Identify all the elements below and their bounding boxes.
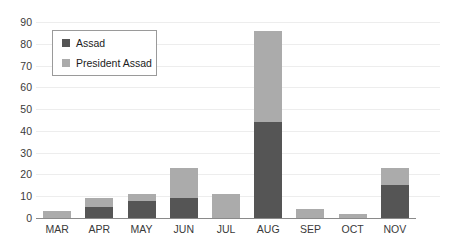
x-axis-tick-label: NOV [367,224,423,235]
gridline [36,87,440,88]
gridline [36,131,440,132]
bar-segment-president-assad [212,194,240,218]
bar-segment-president-assad [85,198,113,207]
bar-segment-president-assad [381,168,409,185]
gridline [36,174,440,175]
bar-group [170,168,198,218]
y-axis-tick-label: 90 [8,17,32,28]
bar-segment-assad [254,122,282,218]
y-axis-tick-label: 10 [8,191,32,202]
legend-swatch-president-assad [62,59,70,67]
bar-segment-president-assad [296,209,324,218]
y-axis-tick-label: 70 [8,61,32,72]
bar-segment-assad [381,185,409,218]
bar-group [254,31,282,218]
legend-swatch-assad [62,39,70,47]
bar-segment-assad [85,207,113,218]
legend-entry-president-assad: President Assad [62,58,152,69]
y-axis-tick-label: 30 [8,148,32,159]
bar-segment-president-assad [170,168,198,198]
legend-label-president-assad: President Assad [76,58,152,69]
bar-group [85,198,113,218]
bar-group [128,194,156,218]
y-axis-tick-label: 60 [8,82,32,93]
y-axis-tick-label: 50 [8,104,32,115]
bar-group [381,168,409,218]
y-axis-tick-label: 0 [8,213,32,224]
y-axis-tick-label: 20 [8,169,32,180]
x-axis-line [36,218,416,219]
legend-entry-assad: Assad [62,38,105,49]
bar-group [212,194,240,218]
y-axis-tick-label: 80 [8,39,32,50]
gridline [36,109,440,110]
bar-segment-president-assad [254,31,282,122]
gridline [36,22,440,23]
legend-label-assad: Assad [76,38,105,49]
bar-group [296,209,324,218]
gridline [36,153,440,154]
bar-segment-assad [170,198,198,218]
bar-segment-assad [128,201,156,218]
stacked-bar-chart: 0102030405060708090 MARAPRMAYJUNJULAUGSE… [0,0,461,248]
chart-legend: Assad President Assad [52,30,157,76]
y-axis-tick-label: 40 [8,126,32,137]
